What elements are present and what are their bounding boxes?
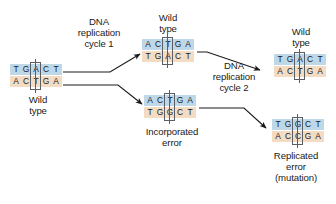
base: A <box>295 54 305 65</box>
base: C <box>283 131 293 142</box>
base: G <box>173 39 183 50</box>
base: T <box>165 95 175 106</box>
label-wild-type-original: Wild type <box>8 94 68 116</box>
duplex-wild-type-cycle1: A C T G A T G A C T <box>142 39 194 62</box>
arrow-cycle1-top <box>63 54 140 72</box>
base: G <box>175 95 185 106</box>
base: T <box>145 107 155 118</box>
base: T <box>315 54 325 65</box>
base: T <box>273 119 283 130</box>
base: T <box>51 64 61 75</box>
strand-bottom: T G G C T <box>144 107 196 118</box>
strand-top: T G A C T <box>274 54 326 65</box>
label-wild-type-cycle1: Wild type <box>139 12 197 34</box>
base: C <box>285 66 295 77</box>
base: C <box>41 64 51 75</box>
base: A <box>273 131 283 142</box>
arrow-cycle1-bottom <box>63 85 142 104</box>
base: G <box>153 51 163 62</box>
base: C <box>155 95 165 106</box>
base: T <box>313 119 323 130</box>
base: A <box>51 76 61 87</box>
base: T <box>185 107 195 118</box>
strand-bottom: A C T G A <box>274 66 326 77</box>
base: T <box>31 76 41 87</box>
base: C <box>305 54 315 65</box>
label-replicated-error: Replicated error (mutation) <box>256 150 336 184</box>
base: A <box>183 39 193 50</box>
base: A <box>145 95 155 106</box>
strand-bottom: A C C G A <box>272 131 324 142</box>
strand-bottom: T G A C T <box>142 51 194 62</box>
base: G <box>283 119 293 130</box>
strand-top: T G A C T <box>10 64 62 75</box>
base: T <box>11 64 21 75</box>
label-wild-type-cycle2: Wild type <box>272 26 330 48</box>
base: A <box>143 39 153 50</box>
strand-bottom: A C T G A <box>10 76 62 87</box>
base: G <box>21 64 31 75</box>
base: A <box>185 95 195 106</box>
duplex-incorporated-error: A C T G A T G G C T <box>144 95 196 118</box>
base: G <box>293 119 303 130</box>
arrow-cycle2-bottom <box>199 108 266 128</box>
strand-top: A C T G A <box>142 39 194 50</box>
dna-replication-diagram: T G A C T A C T G A Wild type DNA replic… <box>0 0 336 204</box>
base: T <box>163 39 173 50</box>
base: A <box>315 66 325 77</box>
strand-top: T G G C T <box>272 119 324 130</box>
duplex-replicated-error: T G G C T A C C G A <box>272 119 324 142</box>
base: C <box>173 51 183 62</box>
base: T <box>183 51 193 62</box>
base: G <box>285 54 295 65</box>
base: G <box>165 107 175 118</box>
base: A <box>11 76 21 87</box>
base: A <box>163 51 173 62</box>
base: A <box>275 66 285 77</box>
base: C <box>293 131 303 142</box>
base: C <box>153 39 163 50</box>
base: G <box>41 76 51 87</box>
base: A <box>313 131 323 142</box>
base: G <box>303 131 313 142</box>
base: T <box>275 54 285 65</box>
label-dna-replication-cycle-2: DNA replication cycle 2 <box>197 60 271 94</box>
strand-top: A C T G A <box>144 95 196 106</box>
base: G <box>155 107 165 118</box>
base: T <box>295 66 305 77</box>
base: C <box>175 107 185 118</box>
base: C <box>21 76 31 87</box>
duplex-wild-type-cycle2: T G A C T A C T G A <box>274 54 326 77</box>
base: A <box>31 64 41 75</box>
base: C <box>303 119 313 130</box>
label-incorporated-error: Incorporated error <box>128 126 216 148</box>
label-dna-replication-cycle-1: DNA replication cycle 1 <box>62 16 136 50</box>
base: T <box>143 51 153 62</box>
duplex-wild-type-original: T G A C T A C T G A <box>10 64 62 87</box>
base: G <box>305 66 315 77</box>
